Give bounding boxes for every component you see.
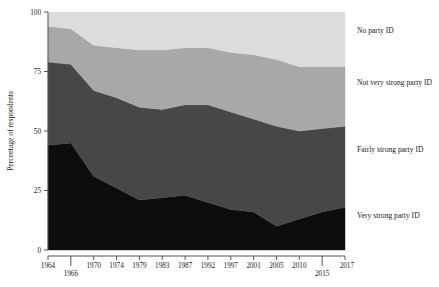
y-tick-label: 50 xyxy=(34,128,42,136)
x-tick-label: 1979 xyxy=(132,262,147,270)
x-tick-label: 1983 xyxy=(155,262,170,270)
x-tick-label: 2010 xyxy=(292,262,307,270)
x-tick-label: 1987 xyxy=(178,262,193,270)
x-axis-ticks: 1964196619701974197919831987199219972001… xyxy=(41,256,355,278)
legend-label-not-very-strong-party-id: Not very strong party ID xyxy=(357,78,433,87)
x-tick-label: 2017 xyxy=(340,262,355,270)
y-tick-label: 0 xyxy=(37,247,41,255)
x-tick-label: 1992 xyxy=(201,262,216,270)
x-tick-label: 1970 xyxy=(87,262,102,270)
chart-canvas: 1964196619701974197919831987199219972001… xyxy=(0,0,439,287)
x-tick-label: 1966 xyxy=(64,270,79,278)
y-axis-title-text: Percentage of respondents xyxy=(6,91,15,171)
y-tick-label: 25 xyxy=(34,187,42,195)
x-tick-label: 2005 xyxy=(269,262,284,270)
x-tick-label: 1974 xyxy=(109,262,124,270)
y-tick-label: 100 xyxy=(30,9,41,17)
y-axis-title: Percentage of respondents xyxy=(6,91,15,171)
legend-label-no-party-id: No party ID xyxy=(357,26,394,35)
x-tick-label: 1997 xyxy=(224,262,239,270)
legend-labels: No party IDNot very strong party IDFairl… xyxy=(357,26,433,220)
legend-label-fairly-strong-party-id: Fairly strong party ID xyxy=(357,145,424,154)
legend-label-very-strong-party-id: Very strong party ID xyxy=(357,211,420,220)
stacked-area-chart: 1964196619701974197919831987199219972001… xyxy=(0,0,439,287)
area-bands-group xyxy=(48,12,345,250)
y-axis-ticks: 0255075100 xyxy=(30,9,48,255)
x-tick-label: 2015 xyxy=(315,270,330,278)
x-tick-label: 1964 xyxy=(41,262,56,270)
y-tick-label: 75 xyxy=(34,68,42,76)
x-tick-label: 2001 xyxy=(246,262,261,270)
